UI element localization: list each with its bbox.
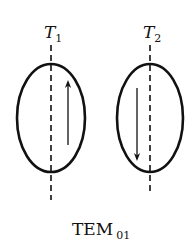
- tem01-mode-diagram: T1 T2 TEM01: [0, 0, 192, 246]
- mode-caption: TEM01: [72, 219, 130, 242]
- t2-label: T2: [143, 22, 161, 45]
- mode-t1: T1: [17, 22, 85, 200]
- t1-label: T1: [44, 22, 62, 45]
- mode-t2: T2: [117, 22, 183, 194]
